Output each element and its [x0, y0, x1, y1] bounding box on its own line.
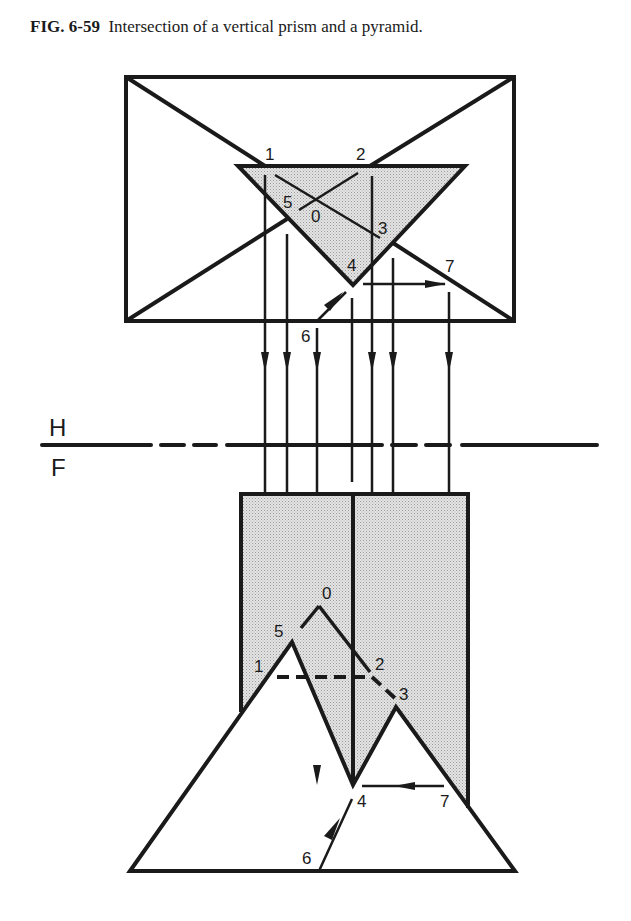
- front-label-3: 3: [399, 685, 408, 704]
- top-label-1: 1: [265, 145, 274, 164]
- fold-label-F: F: [51, 454, 66, 481]
- front-label-4: 4: [357, 792, 366, 811]
- top-label-0: 0: [311, 207, 320, 226]
- top-label-4: 4: [347, 256, 356, 275]
- front-label-6: 6: [302, 849, 311, 868]
- fold-line: H F: [42, 414, 597, 481]
- top-label-2: 2: [356, 145, 365, 164]
- front-label-5: 5: [274, 622, 283, 641]
- front-label-0: 0: [322, 584, 331, 603]
- front-label-2: 2: [375, 655, 384, 674]
- top-label-6: 6: [301, 327, 310, 346]
- top-label-7: 7: [445, 257, 454, 276]
- top-view: 1 2 3 4 5 0 6 7: [126, 77, 514, 346]
- front-label-7: 7: [440, 792, 449, 811]
- front-view: 0 5 1 2 3 4 7 6: [130, 494, 515, 871]
- front-label-1: 1: [254, 657, 263, 676]
- projection-arrows: [261, 352, 453, 372]
- path-4-to-7: [363, 280, 446, 288]
- fold-label-H: H: [49, 414, 66, 441]
- top-label-3: 3: [378, 219, 387, 238]
- path-4-to-6: [318, 292, 346, 320]
- top-label-5: 5: [283, 193, 292, 212]
- drawing: 1 2 3 4 5 0 6 7 H F: [0, 0, 631, 921]
